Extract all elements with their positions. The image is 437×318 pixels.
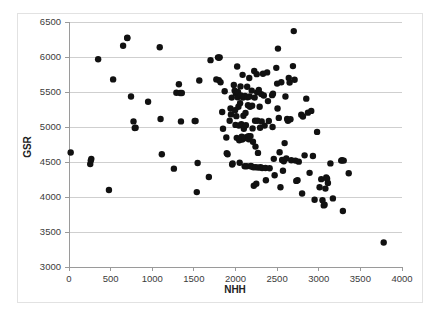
data-point: [269, 124, 275, 130]
data-point: [179, 90, 185, 96]
data-point: [128, 93, 134, 99]
y-tick-label: 5500: [40, 86, 61, 97]
data-point: [299, 190, 305, 196]
data-point: [207, 57, 213, 63]
data-point: [276, 115, 282, 121]
data-point: [263, 177, 269, 183]
data-point: [340, 208, 346, 214]
data-point: [287, 116, 293, 122]
data-point: [106, 187, 112, 193]
data-point: [223, 134, 229, 140]
x-tick-label: 500: [103, 273, 119, 284]
data-point: [194, 160, 200, 166]
x-axis-title: NHH: [224, 284, 246, 295]
data-point: [124, 35, 130, 41]
data-point: [264, 69, 270, 75]
data-point: [217, 79, 223, 85]
x-tick-label: 3000: [308, 273, 329, 284]
data-point: [294, 177, 300, 183]
data-point: [311, 197, 317, 203]
x-tick-label: 2000: [225, 273, 246, 284]
chart-figure: 30003500400045005000550060006500 0500100…: [0, 0, 437, 318]
data-point: [281, 140, 287, 146]
data-point: [67, 149, 73, 155]
y-tick-label: 3500: [40, 226, 61, 237]
data-point: [330, 195, 336, 201]
data-point: [261, 92, 267, 98]
data-point: [322, 185, 328, 191]
data-point: [278, 79, 284, 85]
y-axis-tick-marks: [65, 22, 69, 267]
data-point: [325, 180, 331, 186]
data-point: [130, 118, 136, 124]
data-point: [346, 170, 352, 176]
data-point: [196, 77, 202, 83]
data-point: [321, 202, 327, 208]
data-point: [237, 100, 243, 106]
data-point: [316, 184, 322, 190]
data-point: [277, 184, 283, 190]
data-point: [159, 151, 165, 157]
data-point: [176, 81, 182, 87]
data-point: [306, 170, 312, 176]
data-point: [301, 152, 307, 158]
data-point: [229, 160, 235, 166]
data-point: [275, 45, 281, 51]
data-point: [266, 165, 272, 171]
data-point: [132, 125, 138, 131]
data-point: [314, 129, 320, 135]
data-point: [171, 165, 177, 171]
y-tick-label: 3000: [40, 261, 61, 272]
data-point: [280, 168, 286, 174]
data-point: [282, 93, 288, 99]
data-point: [145, 99, 151, 105]
data-point: [252, 143, 258, 149]
data-point: [291, 28, 297, 34]
data-points-group: [67, 28, 386, 246]
data-point: [327, 160, 333, 166]
data-point: [95, 56, 101, 62]
data-point: [249, 102, 255, 108]
y-tick-label: 6500: [40, 16, 61, 27]
data-point: [231, 82, 237, 88]
data-point: [157, 44, 163, 50]
data-point: [242, 110, 248, 116]
data-point: [266, 118, 272, 124]
data-point: [220, 126, 226, 132]
y-axis-title: GSR: [22, 135, 33, 157]
data-point: [341, 157, 347, 163]
scatter-plot: 30003500400045005000550060006500 0500100…: [0, 0, 437, 318]
data-point: [256, 104, 262, 110]
x-axis-tick-marks: [69, 267, 402, 271]
data-point: [254, 71, 260, 77]
data-point: [303, 95, 309, 101]
data-point: [239, 72, 245, 78]
data-point: [271, 172, 277, 178]
data-point: [224, 151, 230, 157]
x-axis-tick-labels: 05001000150020002500300035004000: [66, 273, 412, 284]
y-axis-tick-labels: 30003500400045005000550060006500: [40, 16, 61, 272]
data-point: [88, 156, 94, 162]
horizontal-gridlines: [69, 22, 402, 267]
data-point: [219, 109, 225, 115]
data-point: [226, 118, 232, 124]
data-point: [380, 239, 386, 245]
data-point: [221, 88, 227, 94]
x-tick-label: 1500: [183, 273, 204, 284]
data-point: [270, 91, 276, 97]
data-point: [308, 108, 314, 114]
data-point: [274, 105, 280, 111]
data-point: [233, 113, 239, 119]
data-point: [120, 43, 126, 49]
data-point: [246, 75, 252, 81]
data-point: [194, 189, 200, 195]
data-point: [234, 63, 240, 69]
data-point: [249, 87, 255, 93]
x-tick-label: 0: [66, 273, 71, 284]
data-point: [110, 76, 116, 82]
data-point: [237, 83, 243, 89]
data-point: [249, 125, 255, 131]
data-point: [290, 63, 296, 69]
data-point: [271, 156, 277, 162]
data-point: [276, 149, 282, 155]
